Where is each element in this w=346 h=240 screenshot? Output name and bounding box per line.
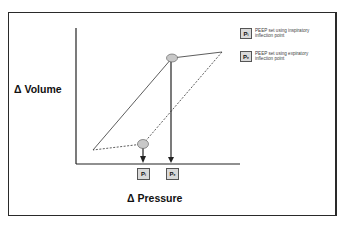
legend-pe-text: PEEP set using expiratory inflection poi…	[255, 51, 327, 61]
legend-item-pe: Pe PEEP set using expiratory inflection …	[240, 51, 327, 62]
inspiratory-limb	[93, 58, 172, 150]
legend-item-pi: Pi PEEP set using inspiratory inflection…	[240, 28, 327, 39]
y-axis-label: Δ Volume	[14, 83, 62, 95]
legend-pe-box: Pe	[240, 51, 252, 62]
legend-pi-text: PEEP set using inspiratory inflection po…	[255, 28, 327, 38]
pi-marker: Pi	[137, 168, 150, 180]
x-axis-label: Δ Pressure	[127, 192, 182, 204]
pi-arrow-head	[140, 156, 146, 163]
legend-pi-box: Pi	[240, 28, 252, 39]
expiratory-limb	[143, 52, 222, 144]
expiratory-inflection-point	[167, 54, 178, 62]
pe-arrow-head	[168, 157, 174, 163]
pe-marker: Pe	[166, 168, 179, 180]
upper-limb	[172, 52, 222, 58]
lower-limb	[93, 144, 143, 150]
inspiratory-inflection-point	[138, 140, 149, 149]
